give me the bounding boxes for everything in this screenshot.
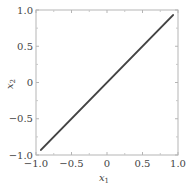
chart: −1.0−0.500.51.0 −1.0−0.500.51.0 x1 x2 [0, 0, 187, 187]
y-tick-label: 0 [27, 77, 33, 88]
plot-area [36, 10, 178, 155]
x-axis-label: x1 [99, 172, 109, 185]
y-tick-label: 0.5 [17, 41, 33, 52]
y-tick-label: 1.0 [17, 5, 33, 16]
x-tick-label: 1.0 [170, 158, 186, 169]
y-tick-label: −0.5 [9, 113, 33, 124]
data-series [41, 15, 173, 150]
x-tick-label: −0.5 [59, 158, 83, 169]
y-tick-label: −1.0 [9, 150, 33, 161]
series-line [41, 15, 173, 150]
x-tick-label: 0 [104, 158, 110, 169]
x-tick-label: 0.5 [135, 158, 151, 169]
y-axis-label: x2 [4, 79, 17, 89]
x-axis-tick-labels: −1.0−0.500.51.0 [24, 158, 186, 169]
